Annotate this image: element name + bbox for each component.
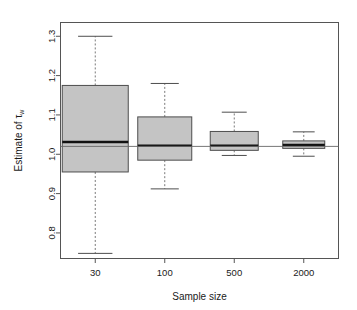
y-axis-tick-label: 1.3 bbox=[47, 30, 58, 43]
boxplot-group bbox=[283, 132, 325, 156]
y-axis-tick-label: 0.9 bbox=[47, 187, 58, 200]
plot-canvas: 0.80.91.01.11.21.3Estimate of τw30100500… bbox=[0, 0, 357, 310]
x-axis-title: Sample size bbox=[172, 291, 227, 302]
x-axis-tick-label: 500 bbox=[226, 267, 242, 278]
box-iqr bbox=[210, 131, 258, 150]
boxplot-group bbox=[210, 112, 258, 155]
boxplot-figure: 0.80.91.01.11.21.3Estimate of τw30100500… bbox=[0, 0, 357, 310]
x-axis-tick-label: 30 bbox=[90, 267, 101, 278]
boxplot-group bbox=[138, 83, 192, 188]
boxplot-group bbox=[62, 36, 128, 253]
x-axis-tick-label: 2000 bbox=[293, 267, 314, 278]
y-axis-tick-label: 0.8 bbox=[47, 226, 58, 239]
box-iqr bbox=[62, 85, 128, 172]
y-axis-tick-label: 1.2 bbox=[47, 69, 58, 82]
y-axis-title: Estimate of τw bbox=[13, 109, 25, 172]
y-axis-tick-label: 1.0 bbox=[47, 148, 58, 161]
box-iqr bbox=[138, 117, 192, 160]
y-axis-tick-label: 1.1 bbox=[47, 108, 58, 121]
x-axis-tick-label: 100 bbox=[157, 267, 173, 278]
